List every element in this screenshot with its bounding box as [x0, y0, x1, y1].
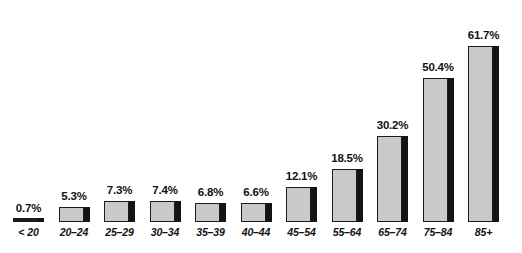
bar-group: 5.3%20–24	[52, 0, 97, 222]
bar-value-label: 30.2%	[370, 119, 415, 131]
bar-top-face	[448, 78, 454, 83]
bar-top-face	[175, 201, 181, 206]
bar-face	[150, 201, 175, 222]
category-label: 45–54	[276, 226, 327, 238]
bar	[332, 169, 363, 222]
bar-value-label: 18.5%	[325, 152, 370, 164]
bar-group: 6.6%40–44	[234, 0, 279, 222]
bar	[377, 136, 408, 222]
bar-group: 0.7%< 20	[6, 0, 51, 222]
bar-group: 30.2%65–74	[370, 0, 415, 222]
bar-side-face	[175, 206, 181, 222]
category-label: 20–24	[49, 226, 100, 238]
category-label: 30–34	[140, 226, 191, 238]
bar-group: 12.1%45–54	[279, 0, 324, 222]
bar-group: 7.3%25–29	[97, 0, 142, 222]
bar-face	[59, 207, 84, 222]
category-label: 85+	[458, 226, 509, 238]
bar-value-label: 61.7%	[461, 29, 506, 41]
bar-side-face	[266, 208, 272, 222]
bar-value-label: 7.3%	[97, 184, 142, 196]
bar-side-face	[448, 83, 454, 222]
bar-top-face	[402, 136, 408, 141]
bar-top-face	[129, 201, 135, 206]
category-label: < 20	[3, 226, 54, 238]
bar	[150, 201, 181, 222]
bar-value-label: 6.6%	[234, 186, 279, 198]
plot-area: 0.7%< 205.3%20–247.3%25–297.4%30–346.8%3…	[0, 0, 522, 253]
category-label: 65–74	[367, 226, 418, 238]
bar-group: 50.4%75–84	[416, 0, 461, 222]
bar-top-face	[357, 169, 363, 174]
bar-value-label: 5.3%	[52, 190, 97, 202]
bar-value-label: 6.8%	[188, 186, 233, 198]
bar-face	[195, 203, 220, 222]
bar-side-face	[357, 174, 363, 222]
bar-top-face	[311, 187, 317, 192]
bar-group: 6.8%35–39	[188, 0, 233, 222]
bar	[241, 203, 272, 222]
bar	[13, 219, 44, 222]
bar-face	[104, 201, 129, 222]
bar-face	[423, 78, 448, 222]
bar	[286, 187, 317, 222]
bar-face	[241, 203, 266, 222]
bar-side-face	[220, 208, 226, 222]
category-label: 40–44	[231, 226, 282, 238]
bar-value-label: 12.1%	[279, 170, 324, 182]
bar-top-face	[38, 218, 44, 222]
bar-face	[13, 218, 38, 222]
bar-top-face	[266, 203, 272, 208]
bar-value-label: 50.4%	[416, 61, 461, 73]
bar	[423, 78, 454, 222]
bar-face	[468, 46, 493, 222]
bar-top-face	[84, 207, 90, 212]
bar	[195, 203, 226, 222]
bar-side-face	[84, 212, 90, 222]
bar-group: 61.7%85+	[461, 0, 506, 222]
bar-face	[286, 187, 311, 222]
bar-side-face	[129, 206, 135, 222]
bar-side-face	[402, 141, 408, 222]
bar-face	[332, 169, 357, 222]
category-label: 55–64	[322, 226, 373, 238]
bar-side-face	[311, 192, 317, 222]
bar-top-face	[493, 46, 499, 51]
bar-group: 18.5%55–64	[325, 0, 370, 222]
bar-face	[377, 136, 402, 222]
bar-value-label: 7.4%	[143, 184, 188, 196]
bar	[59, 207, 90, 222]
bar-side-face	[493, 51, 499, 222]
category-label: 25–29	[94, 226, 145, 238]
bar-group: 7.4%30–34	[143, 0, 188, 222]
bar-top-face	[220, 203, 226, 208]
bar	[468, 46, 499, 222]
bar-value-label: 0.7%	[6, 202, 51, 214]
category-label: 35–39	[185, 226, 236, 238]
category-label: 75–84	[413, 226, 464, 238]
bar	[104, 201, 135, 222]
bar-chart: 0.7%< 205.3%20–247.3%25–297.4%30–346.8%3…	[0, 0, 522, 253]
